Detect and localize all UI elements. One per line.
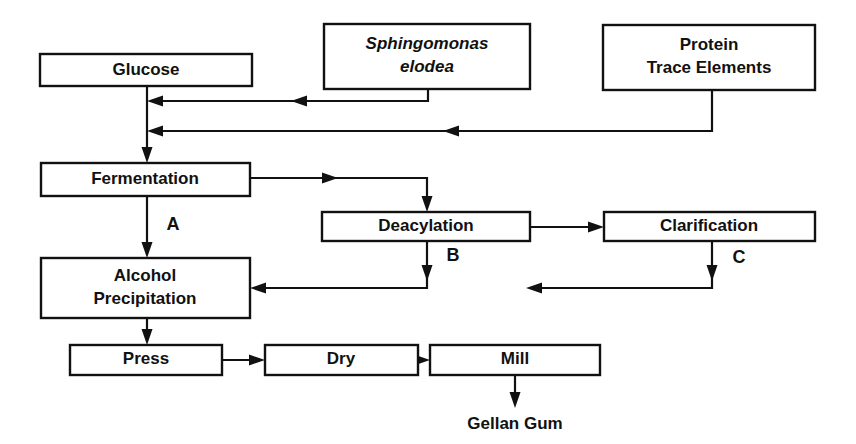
edge-sphingomonas-to-glucose-stem [147,89,428,107]
arrowhead-icon [250,283,266,294]
edge-path [250,178,427,205]
edge-alcohol-to-press [142,318,153,345]
arrowhead-icon [142,329,153,345]
arrowhead-icon [142,242,153,258]
node-dry[interactable]: Dry [265,345,418,375]
edge-path [257,241,427,288]
edge-path [154,89,428,101]
node-label-line1: Protein [680,35,739,54]
node-label-line1: Sphingomonas [366,34,489,53]
edge-press-to-dry [222,355,265,366]
arrowhead-icon [142,147,153,163]
node-press[interactable]: Press [70,345,222,375]
node-label: Glucose [112,60,179,79]
arrowhead-icon [707,265,718,281]
arrowhead-icon [291,96,307,107]
node-label-line1: Alcohol [114,266,176,285]
node-label-line2: elodea [400,57,454,76]
node-label: Deacylation [378,216,473,235]
edge-label-b: B [447,245,460,265]
edge-protein-to-glucose-stem [147,90,712,137]
arrowhead-icon [322,173,338,184]
arrowhead-icon [588,222,604,233]
edge-mill-to-gellan-gum [510,375,521,408]
edge-glucose-to-fermentation [142,86,153,163]
process-flow-diagram: A B C [0,0,856,444]
edge-path [154,90,712,131]
node-glucose[interactable]: Glucose [40,54,252,86]
arrowhead-icon [147,126,163,137]
node-label-line2: Precipitation [94,289,197,308]
node-label: Mill [501,349,529,368]
arrowhead-icon [526,283,542,294]
node-label: Clarification [660,216,758,235]
edge-path [533,241,712,288]
edge-label-c: C [733,247,746,267]
edge-fermentation-to-alcohol: A [142,196,180,258]
node-deacylation[interactable]: Deacylation [322,212,530,241]
edge-label-a: A [167,214,180,234]
arrowhead-icon [422,265,433,281]
node-protein-trace-elements[interactable]: Protein Trace Elements [603,25,815,90]
arrowhead-icon [510,392,521,408]
node-sphingomonas-elodea[interactable]: Sphingomonas elodea [324,24,530,89]
node-label-line2: Trace Elements [647,58,772,77]
node-mill[interactable]: Mill [430,345,600,375]
terminal-label-gellan-gum: Gellan Gum [467,414,562,433]
flowchart-canvas: A B C [0,0,856,444]
arrowhead-icon [147,96,163,107]
arrowhead-icon [422,196,433,212]
node-label: Dry [327,349,356,368]
edge-deacylation-to-clarification [530,222,604,233]
arrowhead-icon [249,355,265,366]
node-label: Fermentation [91,169,199,188]
edge-clarification-to-alcohol: C [526,241,746,294]
edge-deacylation-to-alcohol: B [250,241,460,294]
node-clarification[interactable]: Clarification [604,212,815,241]
arrowhead-icon [443,126,459,137]
node-fermentation[interactable]: Fermentation [41,163,250,196]
node-label: Press [123,349,169,368]
node-alcohol-precipitation[interactable]: Alcohol Precipitation [41,258,250,318]
edge-fermentation-to-deacylation [250,173,433,213]
